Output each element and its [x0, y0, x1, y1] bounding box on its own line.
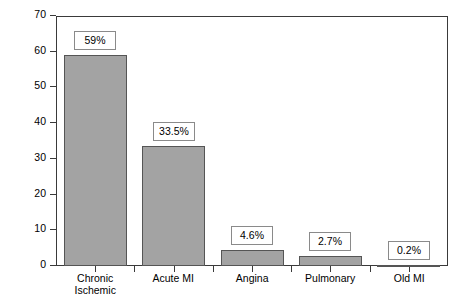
x-axis-category-label: Pulmonary — [291, 272, 369, 284]
y-tick-label: 0 — [40, 258, 46, 270]
x-axis-category-label: Old MI — [370, 272, 448, 284]
bar-value-label: 2.7% — [309, 232, 351, 251]
y-tick-mark — [50, 229, 56, 230]
y-tick-mark — [50, 15, 56, 16]
bar — [142, 146, 205, 266]
y-tick-label: 30 — [34, 151, 46, 163]
bar-value-label: 4.6% — [231, 226, 273, 245]
bar — [64, 55, 127, 266]
y-tick-mark — [50, 265, 56, 266]
y-tick-label: 50 — [34, 79, 46, 91]
bar — [299, 256, 362, 266]
y-tick-mark — [50, 158, 56, 159]
y-tick-label: 60 — [34, 44, 46, 56]
y-tick-mark — [50, 122, 56, 123]
y-tick-mark — [50, 86, 56, 87]
bar-value-label: 33.5% — [153, 122, 195, 141]
y-tick-mark — [50, 51, 56, 52]
x-axis-category-label: ChronicIschemic — [56, 272, 134, 295]
x-axis-category-label: Angina — [213, 272, 291, 284]
bar — [221, 250, 284, 266]
y-tick-label: 70 — [34, 8, 46, 20]
y-tick-label: 10 — [34, 222, 46, 234]
y-tick-mark — [50, 194, 56, 195]
y-tick-label: 40 — [34, 115, 46, 127]
x-axis-category-label: Acute MI — [134, 272, 212, 284]
bar-value-label: 59% — [74, 31, 116, 50]
bar-value-label: 0.2% — [388, 241, 430, 260]
bar — [377, 265, 440, 267]
bar-chart: % of Claims Dollars 010203040506070 59%3… — [0, 0, 458, 295]
y-tick-label: 20 — [34, 187, 46, 199]
